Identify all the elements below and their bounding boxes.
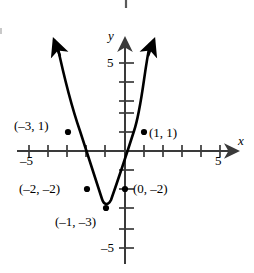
x-tick-label-neg5: –5 [20, 154, 33, 167]
point-neg3-1 [65, 129, 71, 135]
plotted-points [65, 129, 147, 211]
point-label-neg2-neg2: (–2, –2) [19, 182, 60, 195]
point-label-0-neg2: (0, –2) [133, 182, 168, 195]
point-label-neg3-1: (–3, 1) [14, 119, 49, 132]
point-label-1-1: (1, 1) [149, 126, 177, 139]
x-tick-label-5: 5 [215, 154, 222, 167]
point-neg1-neg3 [103, 205, 109, 211]
point-label-neg1-neg3: (–1, –3) [55, 215, 96, 228]
point-0-neg2 [122, 186, 128, 192]
parabola-figure: y x –5 5 5 –5 (–3, 1) (1, 1) (–2, –2) (0… [0, 0, 254, 273]
x-axis-label: x [238, 134, 244, 147]
y-axis-label: y [108, 29, 114, 42]
y-tick-label-neg5: –5 [101, 241, 114, 254]
point-neg2-neg2 [84, 186, 90, 192]
graph-canvas [0, 0, 254, 273]
y-tick-label-5: 5 [107, 56, 114, 69]
point-1-1 [141, 129, 147, 135]
